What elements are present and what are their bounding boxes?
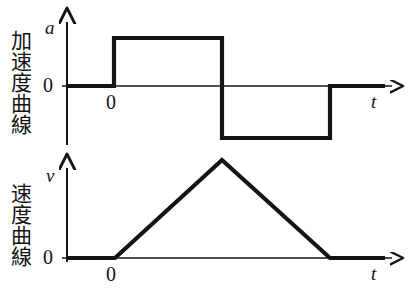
- acceleration-curve: [68, 38, 385, 138]
- velocity-chart: [62, 160, 392, 262]
- acceleration-chart: [62, 22, 392, 145]
- velocity-curve: [68, 160, 385, 258]
- curves-drawing-layer: [0, 0, 413, 300]
- physics-figure: 加速度曲線 速度曲線 a 0 0 t v 0 0 t: [0, 0, 413, 300]
